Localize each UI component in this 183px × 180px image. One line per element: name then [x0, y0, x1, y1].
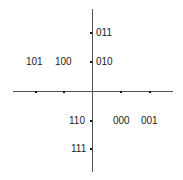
point-label-001: 001	[141, 116, 158, 126]
point-label-110: 110	[69, 116, 85, 126]
point-label-000: 000	[113, 116, 130, 126]
tick-x-right-outer	[149, 91, 151, 93]
point-label-100: 100	[55, 57, 72, 67]
point-label-010: 010	[96, 57, 113, 67]
point-label-101: 101	[26, 57, 43, 67]
tick-x-left-outer	[35, 91, 37, 93]
tick-x-left-inner	[63, 91, 65, 93]
tick-y-upper-inner	[90, 61, 92, 63]
point-label-111: 111	[71, 144, 86, 154]
tick-x-right-inner	[120, 91, 122, 93]
tick-y-lower-inner	[90, 120, 92, 122]
point-label-011: 011	[96, 28, 112, 38]
vertical-axis	[92, 9, 93, 172]
tick-y-upper-outer	[90, 32, 92, 34]
tick-y-lower-outer	[90, 148, 92, 150]
